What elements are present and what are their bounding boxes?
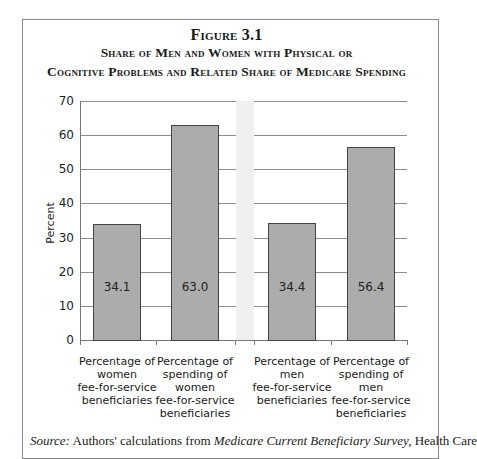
y-tick-label: 50	[44, 162, 74, 176]
y-axis-label: Percent	[44, 202, 57, 243]
x-tick	[156, 340, 157, 345]
x-category-label: Percentage ofspending ofmenfee-for-servi…	[330, 355, 412, 420]
x-category-label: Percentage ofmenfee-for-servicebeneficia…	[251, 355, 333, 407]
x-category-label-line: Percentage of	[251, 355, 333, 368]
x-category-label: Percentage ofspending ofwomenfee-for-ser…	[154, 355, 236, 420]
bar	[347, 147, 395, 341]
x-tick	[331, 340, 332, 345]
y-tick-label: 70	[44, 94, 74, 108]
x-category-label-line: spending of	[330, 368, 412, 381]
x-category-label-line: men	[330, 381, 412, 394]
x-category-label-line: fee-for-service	[154, 394, 236, 407]
bar-value-label: 63.0	[171, 280, 219, 294]
y-tick-label: 20	[44, 265, 74, 279]
bar-value-label: 34.1	[93, 280, 141, 294]
x-tick	[254, 340, 255, 345]
x-category-label-line: beneficiaries	[154, 407, 236, 420]
y-tick-label: 60	[44, 128, 74, 142]
x-category-label-line: Percentage of	[154, 355, 236, 368]
source-survey-name: Medicare Current Beneficiary Survey,	[214, 433, 412, 448]
x-category-label-line: fee-for-service	[251, 381, 333, 394]
x-category-label-line: beneficiaries	[251, 394, 333, 407]
source-text: Authors' calculations from	[73, 433, 211, 448]
source-label: Source:	[30, 433, 70, 448]
bar-value-label: 34.4	[268, 280, 316, 294]
x-category-label: Percentage ofwomenfee-for-servicebenefic…	[76, 355, 158, 407]
bar	[171, 125, 219, 341]
x-category-label-line: fee-for-service	[330, 394, 412, 407]
source-text-tail: Health Care	[415, 433, 477, 448]
x-category-label-line: women	[154, 381, 236, 394]
bar-value-label: 56.4	[347, 280, 395, 294]
y-tick-label: 0	[44, 333, 74, 347]
x-category-label-line: beneficiaries	[76, 394, 158, 407]
x-category-label-line: fee-for-service	[76, 381, 158, 394]
x-category-label-line: spending of	[154, 368, 236, 381]
x-tick	[235, 340, 236, 345]
x-category-label-line: Percentage of	[330, 355, 412, 368]
x-tick	[80, 340, 81, 345]
x-category-label-line: beneficiaries	[330, 407, 412, 420]
x-tick	[407, 340, 408, 345]
group-separator-band	[236, 101, 254, 340]
source-note: Source: Authors' calculations from Medic…	[30, 433, 435, 449]
y-tick-label: 10	[44, 299, 74, 313]
x-category-label-line: men	[251, 368, 333, 381]
x-category-label-line: Percentage of	[76, 355, 158, 368]
y-axis	[80, 101, 81, 341]
x-category-label-line: women	[76, 368, 158, 381]
